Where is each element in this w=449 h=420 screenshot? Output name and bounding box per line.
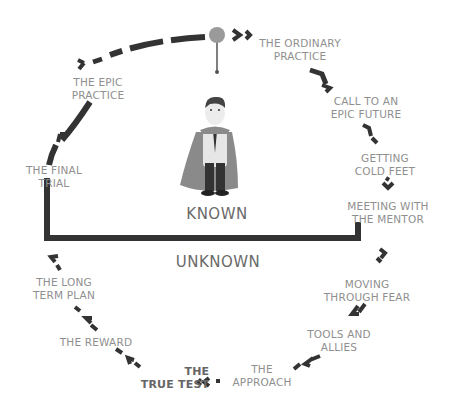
chevron-icon bbox=[116, 349, 140, 367]
unknown-zone-label: UNKNOWN bbox=[176, 253, 261, 271]
chevron-icon bbox=[310, 70, 330, 92]
stage-label-getting-cold-feet: GETTINGCOLD FEET bbox=[355, 152, 415, 178]
stage-label-the-approach: THEAPPROACH bbox=[232, 363, 291, 389]
chevron-icon bbox=[294, 356, 320, 369]
start-dot-icon bbox=[209, 27, 225, 43]
known-zone-label: KNOWN bbox=[186, 205, 247, 223]
chevron-icon bbox=[383, 178, 393, 188]
stage-label-call-to-epic-future: CALL TO ANEPIC FUTURE bbox=[331, 95, 402, 121]
chevron-icon bbox=[78, 60, 84, 69]
hero-figure-icon bbox=[180, 97, 238, 196]
chevron-icon bbox=[377, 249, 385, 262]
chevron-icon bbox=[352, 304, 365, 314]
chevron-icon bbox=[363, 125, 377, 143]
stage-label-the-reward: THE REWARD bbox=[60, 336, 133, 349]
stage-label-epic-practice: THE EPICPRACTICE bbox=[72, 76, 125, 102]
stage-label-long-term-plan: THE LONGTERM PLAN bbox=[33, 276, 95, 302]
chevron-icon bbox=[51, 256, 60, 270]
stage-label-true-test: THETRUE TEST bbox=[141, 365, 210, 391]
stage-label-ordinary-practice: THE ORDINARYPRACTICE bbox=[259, 37, 341, 63]
hero-journey-diagram: KNOWN UNKNOWN THE ORDINARYPRACTICE CALL … bbox=[0, 0, 449, 420]
stage-label-tools-and-allies: TOOLS ANDALLIES bbox=[307, 328, 371, 354]
stage-label-final-trial: THE FINALTRIAL bbox=[26, 164, 82, 190]
chevron-icon bbox=[75, 307, 97, 330]
stage-label-meeting-with-mentor: MEETING WITHTHE MENTOR bbox=[347, 200, 428, 226]
stage-label-moving-through-fear: MOVINGTHROUGH FEAR bbox=[324, 278, 410, 304]
chevron-icon bbox=[233, 30, 250, 40]
